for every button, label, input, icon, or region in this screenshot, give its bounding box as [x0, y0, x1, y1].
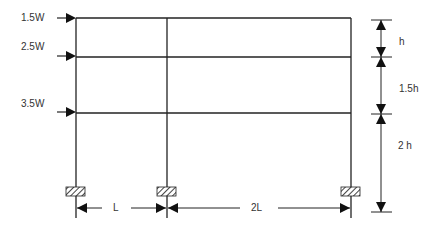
- supports: [66, 187, 360, 196]
- load-arrow-second-icon: [57, 51, 76, 61]
- load-arrow-roof-icon: [57, 13, 76, 23]
- height-label-top: h: [399, 37, 405, 47]
- columns: [76, 18, 351, 218]
- right-support: [341, 187, 360, 196]
- load-arrow-first-icon: [57, 107, 76, 117]
- width-label-left-bay: L: [113, 203, 119, 213]
- frame-diagram: [0, 0, 438, 230]
- load-label-first: 3.5W: [21, 99, 44, 109]
- height-label-middle: 1.5h: [399, 84, 418, 94]
- middle-support: [157, 187, 176, 196]
- beams: [76, 18, 351, 113]
- load-label-second: 2.5W: [21, 42, 44, 52]
- load-label-roof: 1.5W: [21, 13, 44, 23]
- load-arrows: [57, 13, 76, 117]
- width-label-right-bay: 2L: [251, 203, 262, 213]
- height-dimensions: [371, 20, 392, 212]
- left-support: [66, 187, 85, 196]
- height-label-bottom: 2 h: [398, 141, 412, 151]
